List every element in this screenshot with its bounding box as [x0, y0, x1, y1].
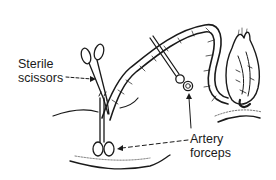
- placenta-region: [226, 28, 259, 107]
- umbilical-cord: [102, 25, 228, 120]
- forceps-lower-arrowhead: [117, 145, 123, 151]
- perineum-contour: [218, 116, 260, 122]
- scissors-leader: [66, 77, 92, 79]
- forceps-upper-arrowhead: [186, 93, 192, 99]
- perineum-hatch: [215, 110, 262, 116]
- sterile-scissors-label-line2: scissors: [18, 71, 63, 85]
- artery-forceps-label-line2: forceps: [190, 146, 231, 160]
- artery-forceps-upper: [150, 36, 193, 91]
- forceps-leader-upper: [189, 98, 191, 128]
- illustration: [0, 0, 276, 180]
- forceps-leader-lower: [122, 140, 188, 148]
- body-contour-upper: [53, 110, 98, 116]
- artery-forceps-label: Artery forceps: [190, 132, 231, 160]
- body-contour-lower: [70, 155, 170, 169]
- body-hatch-lower: [75, 156, 150, 160]
- sterile-scissors-label-line1: Sterile: [18, 57, 63, 71]
- artery-forceps-label-line1: Artery: [190, 132, 231, 146]
- artery-forceps-lower: [93, 92, 114, 156]
- diagram-canvas: Sterile scissors Artery forceps: [0, 0, 276, 180]
- sterile-scissors-label: Sterile scissors: [18, 57, 63, 85]
- body-contour-right: [120, 98, 138, 108]
